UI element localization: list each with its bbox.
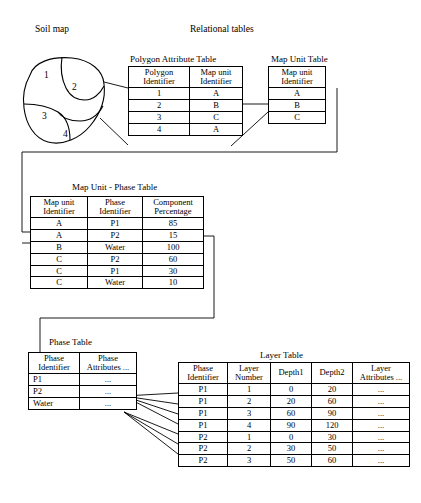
table-row: 1 A — [129, 87, 243, 99]
soil-polygon-4: 4 — [63, 129, 68, 139]
soil-polygon-3: 3 — [42, 111, 47, 121]
table-row: A — [269, 87, 326, 99]
layer-table-title: Layer Table — [260, 350, 303, 360]
table-row: P1 4 90 120 ... — [179, 419, 410, 431]
table-row: C Water 10 — [31, 277, 204, 289]
map-unit-phase-table: Map unit Identifier Phase Identifier Com… — [30, 196, 204, 289]
column-header-depth2: Depth2 — [312, 363, 353, 384]
relational-tables-label: Relational tables — [190, 24, 254, 34]
column-header-layer-attributes: Layer Attributes ... — [353, 363, 410, 384]
column-header-layer-number: Layer Number — [228, 363, 271, 384]
table-header-row: Phase Identifier Layer Number Depth1 Dep… — [179, 363, 410, 384]
map-unit-phase-table-title: Map Unit - Phase Table — [72, 182, 157, 192]
table-row: A P2 15 — [31, 229, 204, 241]
column-header-component-percentage: Component Percentage — [143, 197, 204, 218]
table-row: A P1 85 — [31, 217, 204, 229]
column-header-map-unit-identifier: Map unit Identifier — [269, 67, 326, 88]
column-header-map-unit-identifier: Map unit Identifier — [190, 67, 243, 88]
soil-polygon-2: 2 — [72, 82, 77, 92]
phase-table-title: Phase Table — [49, 337, 92, 347]
table-header-row: Map unit Identifier Phase Identifier Com… — [31, 197, 204, 218]
table-row: P2 2 30 50 ... — [179, 443, 410, 455]
soil-polygon-1: 1 — [44, 70, 49, 80]
column-header-map-unit-identifier: Map unit Identifier — [31, 197, 88, 218]
table-row: P1 3 60 90 ... — [179, 407, 410, 419]
table-row: 3 C — [129, 111, 243, 123]
map-unit-table-title: Map Unit Table — [271, 54, 328, 64]
soil-map-label: Soil map — [35, 24, 69, 34]
table-row: P2 1 0 30 ... — [179, 431, 410, 443]
table-row: 4 A — [129, 123, 243, 135]
column-header-polygon-identifier: Polygon Identifier — [129, 67, 190, 88]
polygon-attribute-table: Polygon Identifier Map unit Identifier 1… — [128, 66, 243, 136]
table-row: B — [269, 99, 326, 111]
table-row: 2 B — [129, 99, 243, 111]
map-unit-table: Map unit Identifier A B C — [268, 66, 326, 124]
table-row: P1 ... — [29, 373, 137, 385]
layer-table: Phase Identifier Layer Number Depth1 Dep… — [178, 362, 410, 467]
table-header-row: Phase Identifier Phase Attributes ... — [29, 353, 137, 374]
table-row: Water ... — [29, 397, 137, 409]
table-row: C P2 60 — [31, 253, 204, 265]
table-header-row: Polygon Identifier Map unit Identifier — [129, 67, 243, 88]
table-row: P2 3 50 60 ... — [179, 455, 410, 467]
column-header-depth1: Depth1 — [271, 363, 312, 384]
column-header-phase-identifier: Phase Identifier — [179, 363, 228, 384]
table-row: P1 1 0 20 ... — [179, 383, 410, 395]
phase-table: Phase Identifier Phase Attributes ... P1… — [28, 352, 137, 410]
column-header-phase-attributes: Phase Attributes ... — [80, 353, 137, 374]
table-row: P1 2 20 60 ... — [179, 395, 410, 407]
table-header-row: Map unit Identifier — [269, 67, 326, 88]
column-header-phase-identifier: Phase Identifier — [88, 197, 143, 218]
column-header-phase-identifier: Phase Identifier — [29, 353, 80, 374]
table-row: C — [269, 111, 326, 123]
polygon-attribute-table-title: Polygon Attribute Table — [130, 54, 216, 64]
table-row: C P1 30 — [31, 265, 204, 277]
table-row: B Water 100 — [31, 241, 204, 253]
table-row: P2 ... — [29, 385, 137, 397]
